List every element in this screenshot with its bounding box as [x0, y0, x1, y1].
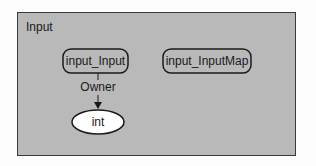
edge-owner-label: Owner — [80, 80, 115, 94]
node-int-label: int — [92, 115, 105, 129]
node-input-input[interactable]: input_Input — [63, 49, 128, 73]
node-input-input-label: input_Input — [66, 54, 126, 68]
edge-owner: Owner — [80, 73, 115, 108]
node-input-inputmap-label: input_InputMap — [166, 54, 249, 68]
node-input-inputmap[interactable]: input_InputMap — [163, 49, 251, 73]
diagram-canvas: input_Input input_InputMap Owner int — [0, 0, 316, 166]
node-int[interactable]: int — [72, 110, 124, 134]
